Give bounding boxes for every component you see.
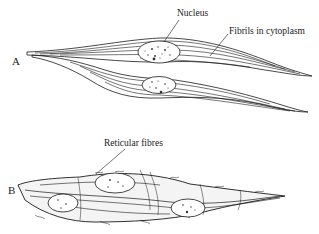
label-reticular: Reticular fibres: [104, 138, 163, 148]
nucleus-lower: [142, 77, 176, 94]
fibrils-leader-line: [210, 34, 228, 56]
nucleus-upper: [138, 41, 180, 63]
label-nucleus: Nucleus: [177, 8, 208, 18]
panel-letter-a: A: [12, 55, 20, 67]
label-fibrils: Fibrils in cytoplasm: [229, 26, 305, 36]
nucleus-b-top: [95, 173, 135, 193]
nucleus-b-left: [48, 194, 78, 212]
panel-letter-b: B: [8, 184, 15, 196]
reticular-leader-line: [96, 149, 125, 174]
nucleus-b-right: [171, 199, 205, 217]
